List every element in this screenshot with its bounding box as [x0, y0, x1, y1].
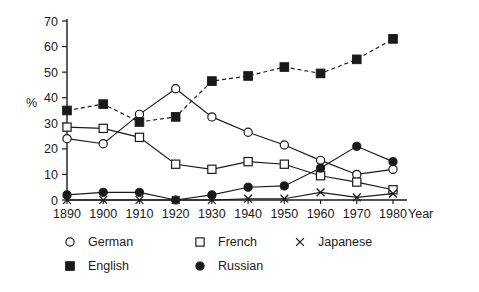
x-tick-label: 1980	[379, 207, 407, 221]
legend-marker-russian	[196, 262, 204, 270]
data-point-english	[244, 72, 253, 81]
x-tick-label: 1930	[198, 207, 226, 221]
data-point-german	[353, 170, 361, 178]
series-german	[63, 85, 397, 179]
data-point-russian	[316, 164, 324, 172]
y-tick-label: 60	[44, 40, 58, 54]
legend-label-english: English	[88, 259, 129, 273]
y-tick-label: 50	[44, 66, 58, 80]
data-point-french	[389, 186, 397, 194]
y-axis-label: %	[26, 96, 37, 110]
data-point-german	[172, 85, 180, 93]
legend-item-english[interactable]: English	[66, 259, 129, 273]
data-point-german	[389, 165, 397, 173]
data-point-english	[99, 100, 108, 109]
x-tick-label: 1910	[126, 207, 154, 221]
data-point-french	[280, 160, 288, 168]
data-series-layer	[63, 35, 398, 205]
data-point-german	[208, 113, 216, 121]
data-point-french	[208, 165, 216, 173]
data-point-russian	[244, 183, 252, 191]
data-point-russian	[353, 142, 361, 150]
data-point-french	[244, 158, 252, 166]
data-point-russian	[280, 182, 288, 190]
data-point-french	[172, 160, 180, 168]
x-axis-label: Year	[408, 207, 433, 221]
series-line-japanese	[67, 192, 393, 200]
series-line-french	[67, 127, 393, 190]
data-point-french	[353, 178, 361, 186]
data-point-french	[63, 123, 71, 131]
series-line-english	[67, 39, 393, 122]
data-point-english	[352, 55, 361, 64]
series-french	[63, 123, 397, 194]
data-point-english	[63, 106, 72, 115]
legend-item-french[interactable]: French	[196, 235, 257, 249]
series-russian	[63, 142, 397, 204]
data-point-russian	[135, 188, 143, 196]
y-tick-label: 30	[44, 117, 58, 131]
x-tick-label: 1900	[89, 207, 117, 221]
data-point-russian	[172, 196, 180, 204]
y-tick-label: 20	[44, 142, 58, 156]
data-point-german	[316, 156, 324, 164]
data-point-english	[316, 69, 325, 78]
legend-marker-german	[66, 238, 74, 246]
data-point-french	[135, 133, 143, 141]
legend-label-french: French	[218, 235, 257, 249]
legend-item-japanese[interactable]: Japanese	[296, 235, 372, 249]
x-tick-label: 1960	[307, 207, 335, 221]
legend-item-german[interactable]: German	[66, 235, 133, 249]
data-point-french	[316, 172, 324, 180]
x-tick-label: 1890	[53, 207, 81, 221]
data-point-english	[135, 118, 144, 127]
data-point-german	[280, 141, 288, 149]
data-point-russian	[208, 191, 216, 199]
data-point-german	[135, 110, 143, 118]
legend-marker-japanese	[296, 238, 304, 246]
legend-marker-english	[66, 262, 75, 271]
legend-item-russian[interactable]: Russian	[196, 259, 263, 273]
data-point-french	[99, 124, 107, 132]
chart-container: 010203040506070 189019001910192019301940…	[0, 0, 479, 292]
data-point-german	[244, 128, 252, 136]
x-tick-label: 1940	[234, 207, 262, 221]
x-tick-label: 1950	[270, 207, 298, 221]
data-point-russian	[63, 191, 71, 199]
y-tick-label: 40	[44, 91, 58, 105]
data-point-russian	[389, 158, 397, 166]
x-tick-label: 1970	[343, 207, 371, 221]
series-english	[63, 35, 398, 127]
y-tick-label: 0	[51, 194, 58, 208]
legend-label-german: German	[88, 235, 133, 249]
y-tick-label: 10	[44, 168, 58, 182]
data-point-german	[99, 140, 107, 148]
chart-legend: GermanFrenchJapaneseEnglishRussian	[66, 235, 373, 273]
data-point-english	[389, 35, 398, 44]
legend-label-russian: Russian	[218, 259, 263, 273]
data-point-german	[63, 135, 71, 143]
legend-label-japanese: Japanese	[318, 235, 372, 249]
data-point-english	[208, 77, 217, 86]
data-point-russian	[99, 188, 107, 196]
legend-marker-french	[196, 238, 204, 246]
y-tick-label: 70	[44, 15, 58, 29]
series-line-russian	[67, 146, 393, 200]
data-point-english	[280, 63, 289, 72]
x-tick-label: 1920	[162, 207, 190, 221]
line-chart-plot: 010203040506070 189019001910192019301940…	[0, 0, 479, 292]
data-point-english	[171, 113, 180, 122]
